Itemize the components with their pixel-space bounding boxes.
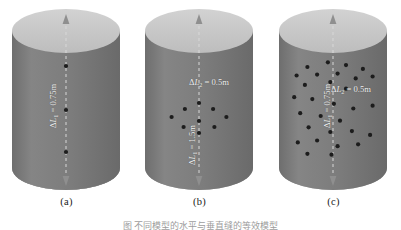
delta-l1-label-c: ΔL1 = 0.75m	[322, 84, 332, 128]
data-dot	[361, 67, 365, 71]
delta-l2-label-c: ΔL2 = 0.5m	[331, 84, 371, 94]
data-dot	[64, 150, 68, 154]
data-dot	[310, 97, 314, 101]
data-dot	[183, 107, 187, 111]
data-dot	[197, 131, 201, 135]
delta-l1-label-a: ΔL1 = 0.75m	[48, 84, 58, 128]
panel-a-caption-label: (a)	[0, 196, 133, 207]
panel-b-caption-label: (b)	[133, 196, 266, 207]
data-dot	[344, 63, 348, 67]
data-dot	[328, 130, 332, 134]
data-dot	[332, 102, 336, 106]
data-dot	[371, 74, 375, 78]
data-dot	[368, 133, 372, 137]
delta-l2-label-b: ΔL2 = 0.5m	[189, 77, 229, 87]
data-dot	[170, 115, 174, 119]
panel-a-cylinder	[0, 0, 133, 200]
panel-c-cylinder	[267, 0, 400, 200]
data-dot	[305, 152, 309, 156]
data-dot	[182, 125, 186, 129]
data-dot	[64, 64, 68, 68]
data-dot	[354, 76, 358, 80]
data-dot	[197, 119, 201, 123]
data-dot	[315, 73, 319, 77]
data-dot	[336, 144, 340, 148]
data-dot	[197, 101, 201, 105]
data-dot	[350, 129, 354, 133]
data-dot	[315, 138, 319, 142]
data-dot	[305, 65, 309, 69]
data-dot	[371, 104, 375, 108]
panel-c-caption-label: (c)	[267, 196, 400, 207]
data-dot	[298, 111, 302, 115]
data-dot	[303, 83, 307, 87]
data-dot	[296, 140, 300, 144]
data-dot	[356, 142, 360, 146]
data-dot	[295, 73, 299, 77]
data-dot	[64, 108, 68, 112]
figure-caption: 图 不同模型的水平与垂直缝的等效模型	[0, 219, 401, 230]
data-dot	[212, 125, 216, 129]
data-dot	[292, 95, 296, 99]
data-dot	[326, 60, 330, 64]
data-dot	[336, 72, 340, 76]
data-dot	[351, 106, 355, 110]
data-dot	[329, 153, 333, 157]
panel-a: ΔL1 = 0.75m (a)	[0, 0, 133, 220]
data-dot	[338, 119, 342, 123]
figure-cylinder-fracture-models: ΔL1 = 0.75m (a)	[0, 0, 401, 230]
panel-c: ΔL2 = 0.5m ΔL1 = 0.75m (c)	[267, 0, 400, 220]
data-dot	[211, 107, 215, 111]
data-dot	[307, 125, 311, 129]
data-dot	[224, 115, 228, 119]
panel-b-cylinder	[133, 0, 266, 200]
delta-l1-label-b: ΔL1 = 1.5m	[187, 125, 197, 165]
panel-b: ΔL2 = 0.5m ΔL1 = 1.5m (b)	[133, 0, 266, 220]
